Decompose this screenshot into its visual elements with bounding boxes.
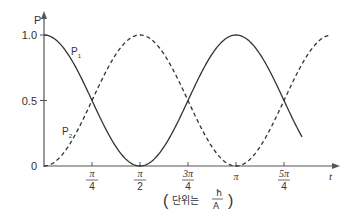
x-tick-numerator: π [233, 171, 239, 182]
x-axis-arrow-icon [332, 163, 340, 169]
y-axis-arrow-icon [41, 11, 47, 19]
p2-subscript: 2 [69, 133, 73, 139]
y-axis-label: P [34, 14, 41, 26]
unit-note-prefix: 단위는 [172, 194, 199, 206]
x-tick-numerator: 3π [182, 168, 194, 179]
series-lines [44, 35, 330, 166]
y-tick-label: 0 [31, 160, 37, 172]
x-tick-numerator: 5π [279, 168, 290, 179]
probability-chart: P 00.51.0 π4π23π4π5π4 t P1 P2 ( 단위는 ħ A … [0, 0, 354, 222]
svg-text:P2: P2 [62, 126, 73, 139]
y-tick-label: 0.5 [22, 95, 37, 107]
p1-subscript: 1 [78, 53, 82, 59]
x-tick-denominator: 2 [137, 181, 143, 192]
axes [41, 11, 340, 169]
x-tick-denominator: 4 [281, 181, 287, 192]
legend-p1: P1 [71, 46, 82, 59]
legend-p2: P2 [62, 126, 73, 139]
x-axis-end-label: t [329, 170, 333, 182]
svg-text:(: ( [163, 192, 169, 209]
p1-curve [44, 35, 302, 166]
y-ticks: 00.51.0 [22, 29, 47, 172]
x-tick-denominator: 4 [89, 181, 95, 192]
x-tick-numerator: π [89, 168, 95, 179]
p2-curve [44, 35, 330, 166]
unit-note: ( 단위는 ħ A ) [163, 188, 233, 211]
unit-note-denominator: A [213, 201, 220, 211]
unit-note-numerator: ħ [216, 188, 222, 198]
x-tick-denominator: 4 [185, 181, 191, 192]
y-tick-label: 1.0 [22, 29, 37, 41]
x-tick-numerator: π [137, 168, 143, 179]
svg-text:P1: P1 [71, 46, 82, 59]
svg-text:): ) [228, 192, 233, 209]
